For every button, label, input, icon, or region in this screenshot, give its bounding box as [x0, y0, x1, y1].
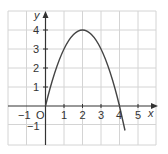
x-tick-4: 4: [116, 109, 122, 121]
x-axis-label: x: [147, 107, 154, 119]
y-axis-arrow-icon: [43, 11, 49, 18]
x-tick-neg1: −1: [18, 109, 31, 121]
y-tick-2: 2: [33, 62, 39, 74]
origin-label: O: [36, 109, 45, 121]
x-tick-3: 3: [98, 109, 104, 121]
x-tick-2: 2: [80, 109, 86, 121]
y-tick-3: 3: [33, 43, 39, 55]
chart: y x 4 3 2 1 −1 −1 O 1 2 3 4 5: [0, 0, 168, 154]
y-tick-1: 1: [33, 81, 39, 93]
y-tick-4: 4: [33, 24, 39, 36]
x-tick-1: 1: [61, 109, 67, 121]
y-tick-neg1: −1: [27, 120, 40, 132]
x-tick-5: 5: [135, 109, 141, 121]
